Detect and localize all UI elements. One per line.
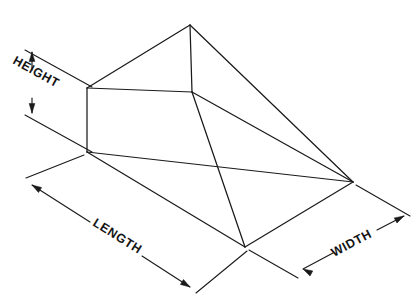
length-arrow-start — [30, 183, 41, 193]
length-dimension-label: LENGTH — [90, 216, 144, 257]
wedge-diagram-svg: HEIGHT LENGTH WIDTH — [0, 0, 419, 303]
width-dimension-label: WIDTH — [329, 227, 374, 260]
diagram-canvas: HEIGHT LENGTH WIDTH — [0, 0, 419, 303]
height-arrow-down — [29, 104, 35, 114]
width-arrow-start — [302, 266, 313, 276]
width-arrow-end — [394, 213, 405, 223]
height-extension-line-lower — [25, 115, 92, 152]
length-extension-line-start — [26, 155, 84, 178]
height-dimension-label: HEIGHT — [11, 53, 62, 90]
wedge-solid — [87, 25, 353, 247]
length-arrow-end — [180, 280, 191, 290]
width-extension-line-start — [249, 250, 298, 278]
width-dim-line-lower — [303, 253, 333, 269]
height-dimension-group: HEIGHT — [11, 50, 92, 152]
length-dim-line-left — [32, 185, 90, 222]
length-extension-line-end — [196, 251, 247, 293]
width-extension-line-end — [356, 185, 410, 216]
